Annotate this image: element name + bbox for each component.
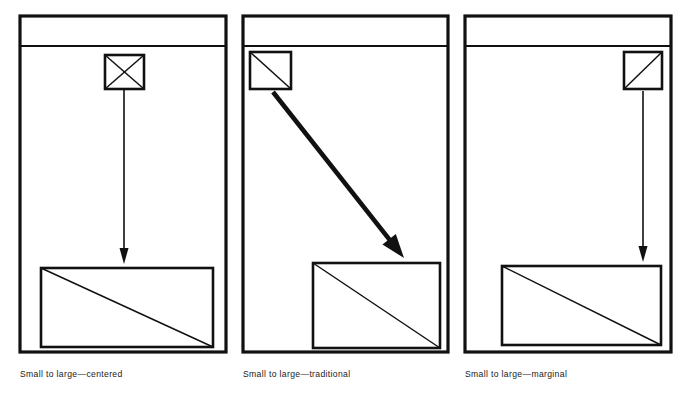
panels-layer	[20, 16, 671, 352]
panel-centered	[20, 16, 226, 352]
captions-layer: Small to large—centeredSmall to large—tr…	[20, 369, 567, 379]
panel-marginal	[465, 16, 671, 352]
panel-caption-traditional: Small to large—traditional	[243, 369, 351, 379]
layout-diagram-canvas: Small to large—centeredSmall to large—tr…	[0, 0, 697, 399]
panel-traditional	[243, 16, 448, 352]
panel-caption-centered: Small to large—centered	[20, 369, 123, 379]
figure-root: Small to large—centeredSmall to large—tr…	[0, 0, 697, 399]
panel-caption-marginal: Small to large—marginal	[465, 369, 567, 379]
